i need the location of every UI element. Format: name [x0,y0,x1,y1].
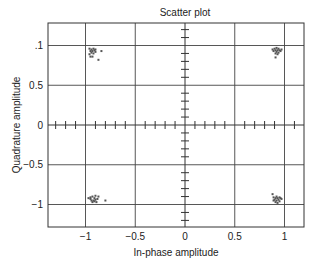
y-tick-labels: .10.50−0.5−1 [23,40,43,210]
x-axis-label: In-phase amplitude [133,247,218,258]
data-point [97,196,99,198]
data-point [273,200,275,202]
data-point [91,56,93,58]
data-point [272,193,274,195]
data-point [88,53,90,55]
data-point [104,200,106,202]
data-point [97,59,99,61]
data-point [94,51,96,53]
y-tick-label: .1 [35,40,44,51]
data-point [93,200,95,202]
data-point [281,198,283,200]
data-point [281,48,283,50]
scatter-chart: Scatter plot −1−0.500.51 .10.50−0.5−1 In… [0,0,310,265]
data-point [277,202,279,204]
x-tick-label: −0.5 [125,231,145,242]
data-point [87,197,89,199]
data-point [276,196,278,198]
y-tick-label: 0 [37,120,43,131]
data-point [279,200,281,202]
center-axes [48,23,304,227]
data-point [92,52,94,54]
x-tick-label: 0 [182,231,188,242]
x-tick-label: −1 [80,231,92,242]
x-tick-label: 0.5 [228,231,242,242]
data-point [273,196,275,198]
data-point [95,201,97,203]
data-point [100,50,102,52]
data-point [273,50,275,52]
data-point [96,198,98,200]
data-point [275,56,277,58]
y-axis-label: Quadrature amplitude [11,76,22,173]
data-point [91,196,93,198]
data-point [89,196,91,198]
data-point [89,56,91,58]
data-point [277,53,279,55]
data-point [91,201,93,203]
data-point [88,48,90,50]
y-tick-label: −0.5 [23,159,43,170]
data-point [275,52,277,54]
data-point [275,201,277,203]
data-point [94,195,96,197]
y-tick-label: −1 [32,199,44,210]
chart-title: Scatter plot [160,7,211,18]
x-tick-label: 1 [282,231,288,242]
data-point [276,47,278,49]
data-point [90,52,92,54]
x-tick-labels: −1−0.500.51 [80,231,288,242]
data-point [94,48,96,50]
y-tick-label: 0.5 [29,80,43,91]
